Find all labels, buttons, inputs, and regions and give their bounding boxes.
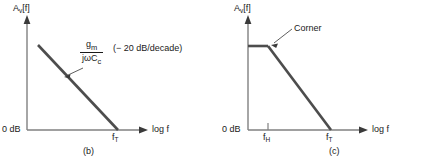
formula-numerator: gm — [80, 40, 103, 53]
bode-plot-figure: Av[f] log f 0 dB fT gm jωCc (− 20 dB/dec… — [0, 0, 421, 164]
x-axis-label-b: log f — [152, 125, 169, 134]
rolloff-line-b — [38, 45, 118, 130]
x-tick-label-ft-b: fT — [112, 133, 119, 142]
formula-leader-b — [66, 68, 83, 76]
x-tick-label-ft-c: fT — [326, 133, 333, 142]
x-axis-b — [27, 127, 148, 134]
y-axis-b — [24, 15, 31, 130]
gain-formula-b: gm jωCc — [80, 40, 103, 66]
rolloff-line-c — [268, 46, 331, 130]
panel-b-graphic — [0, 0, 210, 164]
panel-c-caption: (c) — [329, 147, 340, 156]
zero-db-label-b: 0 dB — [2, 125, 21, 134]
zero-db-label-c: 0 dB — [222, 125, 241, 134]
y-axis-c — [245, 15, 252, 130]
panel-b: Av[f] log f 0 dB fT gm jωCc (− 20 dB/dec… — [0, 0, 210, 164]
panel-c: Av[f] Corner log f 0 dB fH fT (c) — [210, 0, 421, 164]
y-axis-label-b: Av[f] — [13, 4, 30, 13]
corner-annotation-c: Corner — [294, 24, 322, 33]
corner-leader-c — [274, 29, 292, 43]
formula-denominator: jωCc — [80, 53, 103, 65]
panel-b-caption: (b) — [83, 147, 94, 156]
x-tick-label-fh-c: fH — [263, 133, 270, 142]
slope-note-b: (− 20 dB/decade) — [113, 44, 182, 53]
y-axis-label-c: Av[f] — [234, 4, 251, 13]
x-axis-label-c: log f — [372, 125, 389, 134]
